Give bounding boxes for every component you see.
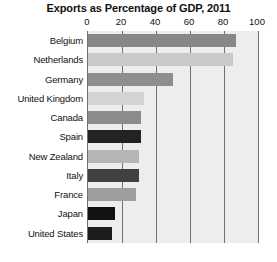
bar-row [88, 70, 258, 89]
bar-row [88, 108, 258, 127]
bar-japan [88, 207, 115, 220]
category-label-germany: Germany [0, 74, 83, 85]
bar-canada [88, 111, 141, 124]
bar-chart-figure: Exports as Percentage of GDP, 2011 02040… [0, 0, 277, 262]
bar-france [88, 188, 136, 201]
bar-united-kingdom [88, 92, 144, 105]
bar-row [88, 89, 258, 108]
x-tick-label-80: 80 [218, 16, 229, 27]
bar-row [88, 147, 258, 166]
category-label-spain: Spain [0, 131, 83, 142]
category-label-netherlands: Netherlands [0, 54, 83, 65]
category-axis-labels: BelgiumNetherlandsGermanyUnited KingdomC… [0, 31, 83, 243]
plot-area [87, 31, 258, 243]
category-label-united-kingdom: United Kingdom [0, 93, 83, 104]
x-tick-label-60: 60 [184, 16, 195, 27]
bar-new-zealand [88, 150, 139, 163]
bars-layer [88, 31, 258, 243]
bar-row [88, 31, 258, 50]
chart-title: Exports as Percentage of GDP, 2011 [0, 2, 277, 14]
category-label-canada: Canada [0, 112, 83, 123]
bar-italy [88, 169, 139, 182]
bar-row [88, 204, 258, 223]
bar-spain [88, 130, 141, 143]
x-tick-label-20: 20 [116, 16, 127, 27]
x-tick-label-100: 100 [249, 16, 265, 27]
bar-row [88, 166, 258, 185]
category-label-france: France [0, 189, 83, 200]
category-label-united-states: United States [0, 228, 83, 239]
bar-row [88, 224, 258, 243]
category-label-italy: Italy [0, 170, 83, 181]
x-axis-tick-labels: 020406080100 [87, 16, 257, 29]
bar-row [88, 50, 258, 69]
x-tick-label-40: 40 [150, 16, 161, 27]
bar-belgium [88, 34, 236, 47]
bar-germany [88, 73, 173, 86]
category-label-new-zealand: New Zealand [0, 151, 83, 162]
bar-row [88, 185, 258, 204]
bar-row [88, 127, 258, 146]
bar-netherlands [88, 53, 233, 66]
category-label-japan: Japan [0, 208, 83, 219]
bar-united-states [88, 227, 112, 240]
category-label-belgium: Belgium [0, 35, 83, 46]
x-tick-label-0: 0 [84, 16, 89, 27]
